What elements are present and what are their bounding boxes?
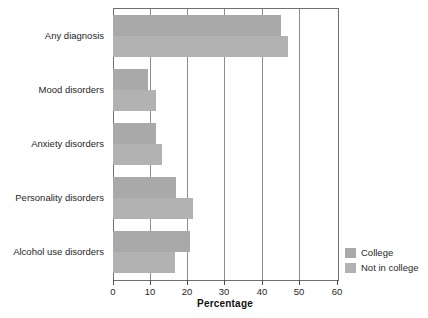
bar-personality-disorders-not-in-college (113, 198, 193, 219)
category-label-personality-disorders: Personality disorders (0, 192, 104, 203)
x-tick-label-50: 50 (287, 286, 311, 297)
bar-mood-disorders-college (113, 69, 148, 90)
bar-any-diagnosis-college (113, 15, 281, 36)
bars-layer (113, 8, 337, 279)
tick-30 (224, 280, 225, 285)
tick-10 (150, 280, 151, 285)
bar-anxiety-disorders-college (113, 123, 156, 144)
legend-label-not-in-college: Not in college (361, 262, 419, 273)
category-label-any-diagnosis: Any diagnosis (0, 30, 104, 41)
x-axis-title: Percentage (113, 298, 337, 309)
bar-alcohol-use-disorders-college (113, 231, 190, 252)
tick-20 (187, 280, 188, 285)
tick-50 (299, 280, 300, 285)
chart-legend: College Not in college (345, 245, 427, 275)
legend-item-college[interactable]: College (345, 245, 427, 260)
bar-personality-disorders-college (113, 177, 176, 198)
legend-item-not-in-college[interactable]: Not in college (345, 260, 427, 275)
x-tick-label-60: 60 (325, 286, 349, 297)
x-tick-label-40: 40 (250, 286, 274, 297)
x-tick-label-10: 10 (138, 286, 162, 297)
bar-alcohol-use-disorders-not-in-college (113, 252, 175, 273)
bar-chart: Any diagnosis Mood disorders Anxiety dis… (0, 0, 428, 318)
legend-label-college: College (361, 247, 393, 258)
tick-40 (262, 280, 263, 285)
tick-60 (337, 280, 338, 285)
bar-mood-disorders-not-in-college (113, 90, 156, 111)
bar-any-diagnosis-not-in-college (113, 36, 288, 57)
bar-anxiety-disorders-not-in-college (113, 144, 162, 165)
legend-swatch-icon-college (345, 248, 356, 258)
legend-swatch-icon-not-in-college (345, 263, 356, 273)
category-label-alcohol-use-disorders: Alcohol use disorders (0, 246, 104, 257)
x-tick-label-30: 30 (212, 286, 236, 297)
tick-0 (113, 280, 114, 285)
x-tick-label-20: 20 (175, 286, 199, 297)
x-tick-label-0: 0 (101, 286, 125, 297)
category-label-anxiety-disorders: Anxiety disorders (0, 138, 104, 149)
category-label-mood-disorders: Mood disorders (0, 84, 104, 95)
category-axis: Any diagnosis Mood disorders Anxiety dis… (0, 8, 109, 286)
